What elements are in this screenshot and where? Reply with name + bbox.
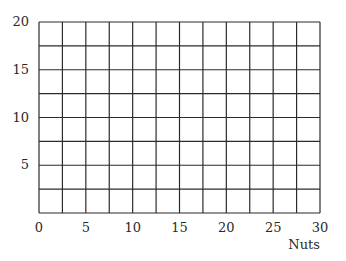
x-axis-label: Nuts xyxy=(288,237,320,252)
grid-lines xyxy=(39,22,320,213)
chart-canvas: 051015202530 5101520 Nuts xyxy=(0,0,346,261)
x-axis-tick-labels: 051015202530 xyxy=(35,220,328,235)
x-tick-label: 0 xyxy=(35,220,43,235)
x-tick-label: 30 xyxy=(312,220,329,235)
x-tick-label: 15 xyxy=(171,220,188,235)
y-tick-label: 20 xyxy=(12,14,29,29)
x-tick-label: 10 xyxy=(124,220,141,235)
y-tick-label: 15 xyxy=(12,62,29,77)
x-tick-label: 25 xyxy=(265,220,282,235)
y-axis-tick-labels: 5101520 xyxy=(12,14,29,172)
y-tick-label: 10 xyxy=(12,110,29,125)
x-tick-label: 20 xyxy=(218,220,235,235)
y-tick-label: 5 xyxy=(21,157,29,172)
x-tick-label: 5 xyxy=(82,220,90,235)
